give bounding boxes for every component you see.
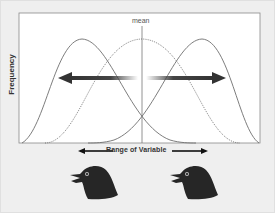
mean-label: mean [132,17,150,24]
range-right-arrowhead-icon [201,148,208,154]
right-arrow-shaft [146,76,214,80]
chart-graphic [0,0,275,213]
bird-head-right-icon [170,166,218,199]
left-arrow-shaft [70,76,138,80]
y-axis-label: Frequency [7,50,16,100]
bird-head-left-icon [70,166,118,199]
disruptive-selection-figure: Frequency mean Range of Variable [0,0,275,213]
x-axis-label: Range of Variable [106,146,166,153]
range-left-arrowhead-icon [78,148,85,154]
